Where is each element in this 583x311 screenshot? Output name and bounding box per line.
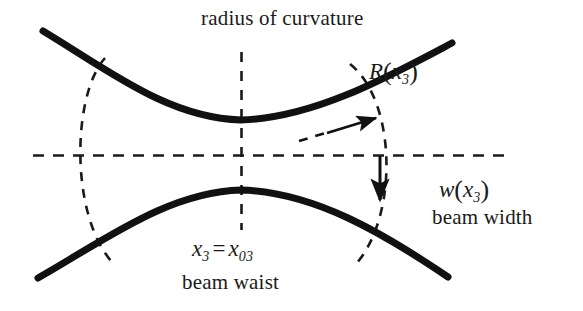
paren-open: (: [454, 175, 463, 204]
label-radius-of-curvature: radius of curvature: [201, 8, 363, 29]
figure-canvas: [0, 0, 583, 311]
label-waist-position: x3=x03: [192, 237, 253, 264]
equals-sign: =: [210, 236, 229, 261]
lower-beam-envelope: [38, 190, 448, 278]
label-radius-of-curvature-symbol: R(x3): [369, 58, 418, 87]
radius-arrow: [327, 118, 376, 133]
paren-open: (: [383, 57, 392, 86]
paren-close: ): [409, 57, 418, 86]
paren-close: ): [481, 175, 490, 204]
subscript-03: 03: [239, 249, 254, 264]
subscript-3: 3: [473, 190, 480, 205]
x-symbol: x: [192, 236, 202, 261]
subscript-3: 3: [202, 249, 209, 264]
label-beam-width-symbol: w(x3): [439, 176, 489, 205]
left-wavefront-arc: [80, 58, 112, 262]
label-beam-waist: beam waist: [182, 272, 279, 293]
x-symbol: x: [229, 236, 239, 261]
x-symbol: x: [392, 59, 402, 84]
x-symbol: x: [463, 177, 473, 202]
gaussian-beam-figure: radius of curvature R(x3) w(x3) beam wid…: [0, 0, 583, 311]
label-beam-width: beam width: [432, 207, 533, 228]
R-symbol: R: [369, 59, 383, 84]
w-symbol: w: [439, 177, 454, 202]
